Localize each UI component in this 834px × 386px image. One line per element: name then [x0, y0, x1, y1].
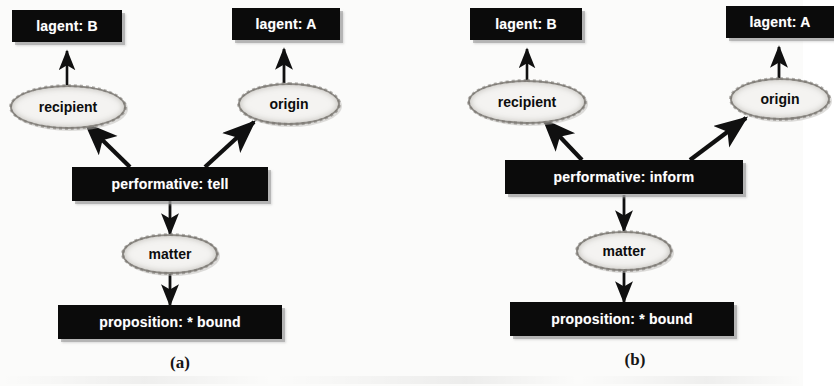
- relation-label: matter: [603, 243, 646, 259]
- concept-label: proposition: * bound: [99, 314, 241, 330]
- relation-node-matter[interactable]: matter: [122, 234, 218, 274]
- edge-performative-to-origin: [690, 118, 746, 160]
- relation-node-matter[interactable]: matter: [576, 231, 672, 271]
- relation-label: matter: [149, 246, 192, 262]
- concept-node-agent-a[interactable]: lagent: A: [726, 6, 834, 38]
- relation-label: origin: [761, 91, 800, 107]
- concept-label: lagent: B: [495, 16, 557, 32]
- concept-node-performative[interactable]: performative: tell: [72, 167, 268, 201]
- panel-caption-b: (b): [595, 350, 675, 370]
- concept-label: lagent: B: [36, 18, 98, 34]
- concept-label: performative: tell: [111, 176, 228, 192]
- relation-label: origin: [270, 96, 309, 112]
- concept-label: lagent: A: [255, 16, 316, 32]
- diagram-panel-b: lagent: B lagent: A performative: inform…: [400, 0, 803, 386]
- concept-label: lagent: A: [749, 14, 810, 30]
- relation-node-origin[interactable]: origin: [730, 78, 830, 120]
- edge-performative-to-recipient: [544, 120, 582, 160]
- concept-node-proposition[interactable]: proposition: * bound: [510, 302, 734, 336]
- relation-label: recipient: [498, 94, 556, 110]
- edge-performative-to-recipient: [86, 124, 130, 167]
- relation-label: recipient: [39, 99, 97, 115]
- concept-node-agent-a[interactable]: lagent: A: [232, 8, 340, 40]
- concept-node-agent-b[interactable]: lagent: B: [12, 10, 122, 42]
- panel-caption-a: (a): [140, 353, 220, 373]
- concept-node-agent-b[interactable]: lagent: B: [470, 8, 582, 40]
- concept-node-performative[interactable]: performative: inform: [505, 160, 743, 194]
- concept-label: performative: inform: [554, 169, 695, 185]
- concept-node-proposition[interactable]: proposition: * bound: [58, 305, 282, 339]
- relation-node-recipient[interactable]: recipient: [468, 80, 586, 124]
- edge-performative-to-origin: [205, 122, 254, 167]
- concept-label: proposition: * bound: [551, 311, 693, 327]
- relation-node-origin[interactable]: origin: [238, 83, 340, 125]
- relation-node-recipient[interactable]: recipient: [10, 85, 126, 129]
- diagram-panel-a: lagent: B lagent: A performative: tell p…: [0, 0, 400, 386]
